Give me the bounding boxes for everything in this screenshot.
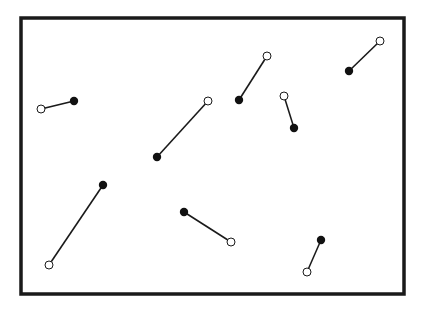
segment-1 (37, 97, 78, 113)
open-circle-icon (45, 261, 53, 269)
segment-6 (45, 181, 107, 269)
segment-8 (303, 236, 325, 276)
segment-line (284, 96, 294, 128)
filled-circle-icon (235, 96, 243, 104)
segments-group (37, 37, 384, 276)
segment-line (157, 101, 208, 157)
segment-line (184, 212, 231, 242)
segment-2 (153, 97, 212, 161)
filled-circle-icon (99, 181, 107, 189)
open-circle-icon (263, 52, 271, 60)
open-circle-icon (303, 268, 311, 276)
filled-circle-icon (180, 208, 188, 216)
filled-circle-icon (345, 67, 353, 75)
segment-line (49, 185, 103, 265)
open-circle-icon (37, 105, 45, 113)
filled-circle-icon (317, 236, 325, 244)
segment-5 (345, 37, 384, 75)
diagram-canvas (0, 0, 421, 313)
segment-4 (280, 92, 298, 132)
open-circle-icon (280, 92, 288, 100)
diagram-frame (21, 18, 404, 294)
open-circle-icon (227, 238, 235, 246)
segment-3 (235, 52, 271, 104)
filled-circle-icon (290, 124, 298, 132)
segment-line (41, 101, 74, 109)
segment-line (307, 240, 321, 272)
filled-circle-icon (70, 97, 78, 105)
open-circle-icon (376, 37, 384, 45)
segment-7 (180, 208, 235, 246)
segment-line (349, 41, 380, 71)
segment-line (239, 56, 267, 100)
filled-circle-icon (153, 153, 161, 161)
open-circle-icon (204, 97, 212, 105)
